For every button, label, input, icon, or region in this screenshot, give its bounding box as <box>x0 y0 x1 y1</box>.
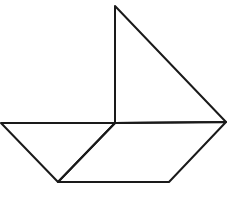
sail-triangle <box>115 6 226 123</box>
boat-diagram <box>0 0 243 209</box>
right-hull-parallelogram <box>58 122 226 182</box>
left-hull-triangle <box>1 123 115 182</box>
